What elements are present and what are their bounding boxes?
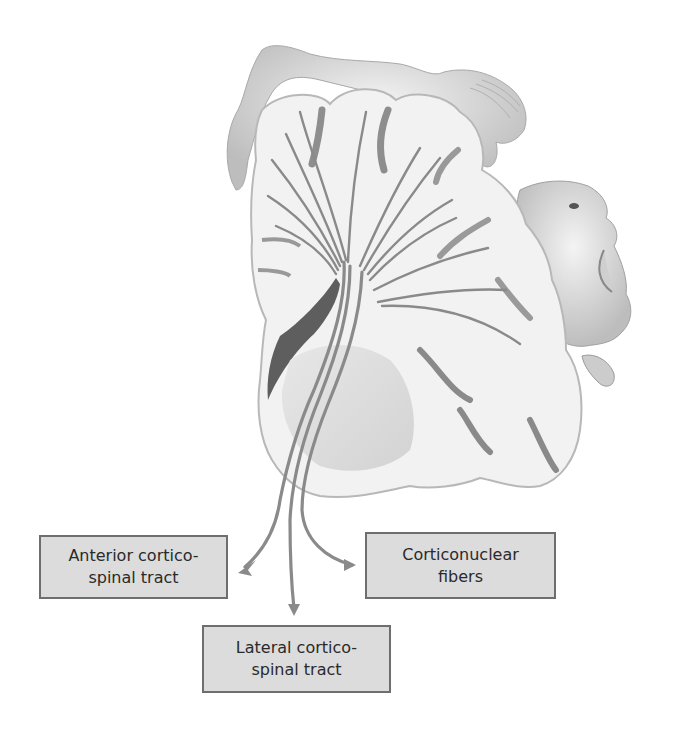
label-corticonuclear-line2: fibers: [402, 566, 519, 588]
brain-section-icon: [251, 89, 581, 497]
label-corticonuclear-fibers: Corticonuclear fibers: [365, 532, 556, 599]
label-lateral-line1: Lateral cortico-: [236, 637, 357, 659]
label-lateral-line2: spinal tract: [236, 659, 357, 681]
label-corticonuclear-line1: Corticonuclear: [402, 544, 519, 566]
arrow-lateral-icon: [288, 604, 300, 616]
arrow-corticonuclear-icon: [344, 559, 356, 571]
label-anterior-line2: spinal tract: [68, 567, 198, 589]
homunculus-tongue-icon: [582, 355, 614, 386]
brain-illustration: [0, 0, 686, 734]
label-anterior-corticospinal-tract: Anterior cortico- spinal tract: [39, 535, 228, 599]
label-lateral-corticospinal-tract: Lateral cortico- spinal tract: [202, 625, 391, 693]
arrow-anterior-icon: [238, 560, 256, 576]
label-anterior-line1: Anterior cortico-: [68, 545, 198, 567]
